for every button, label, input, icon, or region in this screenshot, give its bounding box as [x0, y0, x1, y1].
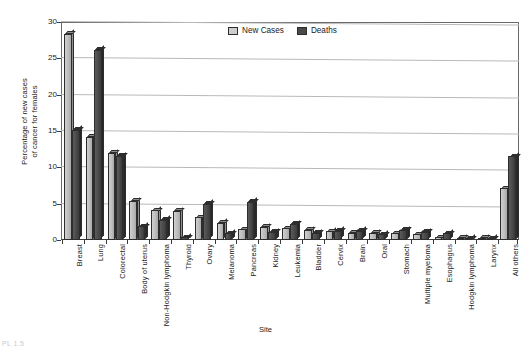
x-axis-label-melanoma: Melanoma: [227, 244, 236, 280]
bar-new-cases: [64, 34, 72, 240]
bar-group: [282, 22, 298, 240]
bar-front-face: [173, 211, 181, 240]
bar-deaths: [334, 231, 342, 240]
bar-group: [391, 22, 407, 240]
bar-group: [151, 22, 167, 240]
bar-deaths: [312, 233, 320, 240]
bar-new-cases: [129, 201, 137, 240]
bar-new-cases: [151, 210, 159, 240]
y-tick-label-15: 15: [11, 126, 57, 127]
bar-group: [108, 22, 124, 240]
bar-new-cases: [173, 211, 181, 240]
bar-group: [238, 22, 254, 240]
x-axis-label-kidney: Kidney: [271, 244, 280, 268]
bar-new-cases: [195, 217, 203, 240]
bar-front-face: [369, 233, 377, 240]
bar-front-face: [159, 220, 167, 240]
bar-series-group: [61, 22, 519, 240]
bar-front-face: [290, 224, 298, 240]
x-axis-label-pancreas: Pancreas: [249, 244, 258, 276]
bar-front-face: [72, 130, 80, 240]
bar-group: [86, 22, 102, 240]
bar-deaths: [247, 202, 255, 241]
bar-side-face: [180, 207, 183, 239]
bar-front-face: [94, 50, 102, 240]
bar-front-face: [260, 227, 268, 240]
x-axis-label-brain: Brain: [358, 244, 367, 262]
y-tick-label-25: 25: [11, 53, 57, 54]
bar-front-face: [282, 228, 290, 240]
x-axis-label-lung: Lung: [96, 244, 105, 261]
bar-side-face: [254, 198, 257, 239]
bar-front-face: [421, 232, 429, 240]
bar-side-face: [101, 46, 104, 239]
bar-new-cases: [217, 223, 225, 240]
bar-deaths: [421, 232, 429, 240]
x-axis-label-all-others: All others: [511, 244, 520, 276]
bar-new-cases: [326, 231, 334, 240]
bar-group: [369, 22, 385, 240]
bar-front-face: [268, 232, 276, 240]
x-axis-label-body-of-uterus: Body of uterus: [140, 244, 149, 294]
legend-label-new-cases: New Cases: [242, 26, 284, 35]
bar-front-face: [203, 204, 211, 240]
bar-front-face: [64, 34, 72, 240]
x-axis-title: Site: [0, 325, 531, 334]
x-axis-label-non-hodgkin-lymphoma: Non-Hodgkin lymphoma: [162, 244, 171, 326]
bar-new-cases: [108, 153, 116, 240]
bar-group: [173, 22, 189, 240]
bar-deaths: [138, 226, 146, 240]
x-axis-label-bladder: Bladder: [314, 244, 323, 271]
legend-label-deaths: Deaths: [311, 26, 337, 35]
bar-new-cases: [238, 229, 246, 240]
bar-front-face: [399, 230, 407, 240]
bar-side-face: [210, 200, 213, 239]
legend-swatch-new-cases: [228, 27, 238, 35]
x-axis-label-breast: Breast: [75, 244, 84, 266]
bar-new-cases: [304, 230, 312, 240]
bar-new-cases: [260, 227, 268, 240]
bar-group: [129, 22, 145, 240]
footer-caption-fragment: PL 1.5: [2, 340, 24, 347]
bar-front-face: [326, 231, 334, 240]
bar-front-face: [247, 202, 255, 241]
x-axis-label-thyroid: Thyroid: [184, 244, 193, 270]
bar-front-face: [356, 231, 364, 240]
x-axis-label-esophagus: Esophagus: [445, 244, 454, 282]
bar-group: [326, 22, 342, 240]
bar-front-face: [195, 217, 203, 240]
bar-front-face: [304, 230, 312, 240]
bar-group: [304, 22, 320, 240]
bar-group: [260, 22, 276, 240]
bar-side-face: [79, 126, 82, 239]
bar-new-cases: [282, 228, 290, 240]
bar-front-face: [238, 229, 246, 240]
bar-front-face: [217, 223, 225, 240]
bar-front-face: [86, 137, 94, 240]
bar-new-cases: [348, 233, 356, 240]
bar-front-face: [508, 156, 516, 240]
bar-deaths: [508, 156, 516, 240]
bar-front-face: [108, 153, 116, 240]
bar-front-face: [138, 226, 146, 240]
bar-side-face: [516, 153, 519, 239]
bar-new-cases: [500, 188, 508, 240]
legend-item-new-cases: New Cases: [228, 26, 284, 35]
bar-deaths: [94, 50, 102, 240]
y-tick-label-5: 5: [11, 199, 57, 200]
bar-new-cases: [86, 137, 94, 240]
bar-deaths: [116, 156, 124, 240]
bar-group: [64, 22, 80, 240]
bar-group: [348, 22, 364, 240]
legend-swatch-deaths: [297, 27, 307, 35]
bar-deaths: [399, 230, 407, 240]
y-axis: 051015202530: [9, 22, 57, 241]
bar-new-cases: [369, 233, 377, 240]
bar-side-face: [123, 152, 126, 239]
chart-container: Percentage of new cases of cancer for fe…: [0, 0, 531, 353]
bar-front-face: [151, 210, 159, 240]
bar-front-face: [348, 233, 356, 240]
bar-front-face: [500, 188, 508, 240]
bar-front-face: [129, 201, 137, 240]
bar-group: [435, 22, 451, 240]
